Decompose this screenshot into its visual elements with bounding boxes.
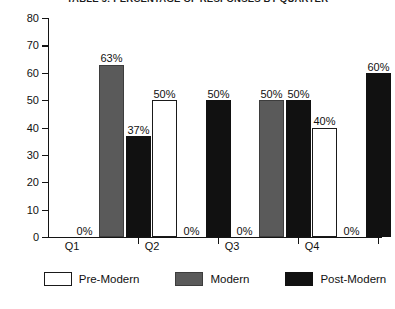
x-tick-label: Q3 [225, 240, 240, 252]
y-tick-label: 70 [27, 39, 39, 51]
y-tick-label: 10 [27, 204, 39, 216]
bar-value-label: 0% [184, 225, 200, 237]
bar-q4-pre-modern[interactable]: 40% [312, 128, 337, 238]
x-tick-mark [378, 237, 379, 244]
legend-swatch [175, 272, 203, 286]
x-tick-label: Q2 [145, 240, 160, 252]
x-tick-mark [218, 237, 219, 244]
bar-q1-post-modern[interactable]: 37% [126, 136, 151, 237]
y-tick-mark [42, 73, 48, 74]
bar-value-label: 0% [237, 225, 253, 237]
x-tick-mark [138, 237, 139, 244]
y-tick-label: 60 [27, 67, 39, 79]
legend-swatch [44, 272, 72, 286]
bar-value-label: 0% [77, 225, 93, 237]
bar-value-label: 37% [127, 124, 149, 136]
y-tick-label: 30 [27, 149, 39, 161]
x-axis-line [48, 237, 382, 238]
legend-label: Post-Modern [320, 273, 386, 285]
y-tick-label: 80 [27, 12, 39, 24]
x-tick-label: Q4 [305, 240, 320, 252]
y-tick-label: 0 [33, 231, 39, 243]
y-axis-line [48, 18, 49, 238]
y-tick-mark [42, 45, 48, 46]
bar-value-label: 50% [153, 88, 175, 100]
y-tick-mark [42, 100, 48, 101]
bar-q3-modern[interactable]: 50% [259, 100, 284, 237]
bar-q2-post-modern[interactable]: 50% [206, 100, 231, 237]
bar-value-label: 40% [313, 115, 335, 127]
y-tick-mark [42, 182, 48, 183]
y-tick-mark [42, 237, 48, 238]
y-tick-mark [42, 155, 48, 156]
legend-item-post-modern[interactable]: Post-Modern [285, 272, 386, 286]
legend-label: Modern [210, 273, 249, 285]
y-tick-label: 20 [27, 176, 39, 188]
bar-q3-post-modern[interactable]: 50% [286, 100, 311, 237]
y-tick-mark [42, 210, 48, 211]
chart-legend: Pre-ModernModernPost-Modern [48, 272, 382, 286]
bar-q4-post-modern[interactable]: 60% [366, 73, 391, 237]
bar-value-label: 50% [287, 88, 309, 100]
legend-item-modern[interactable]: Modern [175, 272, 249, 286]
bar-value-label: 60% [367, 61, 389, 73]
y-tick-label: 40 [27, 122, 39, 134]
bar-value-label: 63% [100, 52, 122, 64]
y-tick-mark [42, 128, 48, 129]
x-tick-label: Q1 [65, 240, 80, 252]
bar-value-label: 50% [260, 88, 282, 100]
bar-value-label: 50% [207, 88, 229, 100]
x-tick-mark [298, 237, 299, 244]
chart-title: TABLE 5: PERCENTAGE OF RESPONSES BY QUAR… [0, 0, 395, 4]
bar-group-bars: 0%50%50% [232, 18, 311, 237]
bar-chart: TABLE 5: PERCENTAGE OF RESPONSES BY QUAR… [0, 0, 395, 309]
legend-item-pre-modern[interactable]: Pre-Modern [44, 272, 140, 286]
bar-value-label: 0% [344, 225, 360, 237]
y-tick-label: 50 [27, 94, 39, 106]
y-tick-mark [42, 18, 48, 19]
bar-group-bars: 50%0%50% [152, 18, 231, 237]
plot-area: 01020304050607080 0%63%37%Q150%0%50%Q20%… [48, 18, 382, 238]
legend-swatch [285, 272, 313, 286]
legend-label: Pre-Modern [79, 273, 140, 285]
bar-q2-pre-modern[interactable]: 50% [152, 100, 177, 237]
bar-group-bars: 0%63%37% [72, 18, 151, 237]
bar-group-bars: 40%0%60% [312, 18, 391, 237]
bar-q1-modern[interactable]: 63% [99, 65, 124, 237]
